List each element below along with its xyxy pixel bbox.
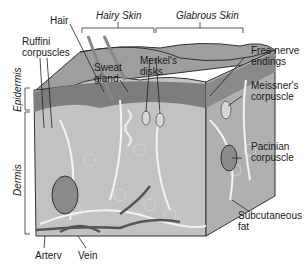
free-nerve-label-2: endings [251, 56, 286, 67]
ruffini-label-1: Ruffini [22, 36, 50, 47]
dermis-label: Dermis [12, 164, 23, 196]
sweat-gland-label-2: gland [94, 73, 118, 84]
ruffini-label-2: corpuscles [22, 47, 70, 58]
meissner-label-1: Meissner's [251, 80, 298, 91]
free-nerve-label-1: Free nerve [251, 45, 299, 56]
pacinian-label-2: corpuscle [251, 152, 294, 163]
merkel-label-1: Merkel's [140, 55, 177, 66]
glabrous-skin-label: Glabrous Skin [176, 10, 239, 21]
hairy-skin-label: Hairy Skin [96, 10, 142, 21]
meissner-corpuscle [221, 101, 231, 119]
epidermis-label: Epidermis [12, 68, 23, 112]
sweat-gland-label-1: Sweat [94, 62, 122, 73]
pacinian-corpuscle-left [52, 176, 78, 214]
subcutaneous-label-1: Subcutaneous [238, 210, 302, 221]
hair-label: Hair [50, 15, 68, 26]
vein-label: Vein [78, 250, 97, 261]
subcutaneous-label-2: fat [238, 221, 249, 232]
meissner-label-2: corpuscle [251, 91, 294, 102]
pacinian-label-1: Pacinian [251, 141, 289, 152]
merkel-label-2: disks [140, 66, 163, 77]
artery-label: Arterv [35, 250, 62, 261]
